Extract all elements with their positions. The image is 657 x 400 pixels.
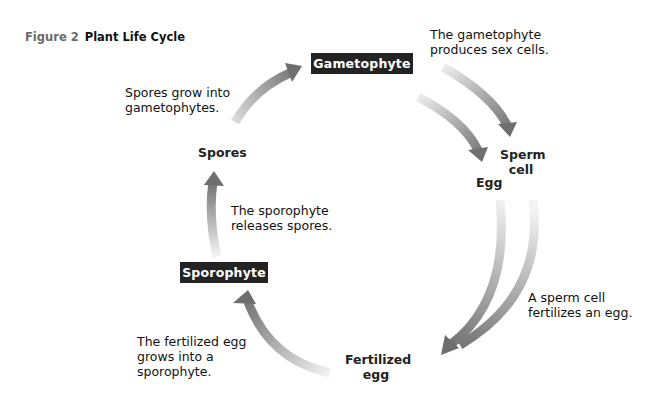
caption-line: Spores grow into bbox=[125, 85, 230, 100]
arrow-fertilized-to-sporophyte bbox=[233, 290, 330, 373]
caption-sperm-fertilizes: A sperm cell fertilizes an egg. bbox=[528, 290, 632, 320]
figure-title: Figure 2Plant Life Cycle bbox=[25, 30, 185, 44]
sperm-cell-line2: cell bbox=[500, 162, 542, 177]
figure-name: Plant Life Cycle bbox=[85, 30, 185, 44]
stage-gametophyte: Gametophyte bbox=[311, 53, 413, 74]
caption-line: A sperm cell bbox=[528, 290, 632, 305]
arrow-fertilization bbox=[441, 200, 534, 355]
stage-fertilized-egg: Fertilized egg bbox=[345, 352, 407, 382]
stage-egg: Egg bbox=[476, 175, 502, 190]
arrow-sporophyte-to-spores bbox=[204, 171, 224, 257]
sperm-cell-line1: Sperm bbox=[500, 147, 542, 162]
stage-sporophyte: Sporophyte bbox=[180, 262, 268, 283]
caption-spores-grow: Spores grow into gametophytes. bbox=[125, 85, 230, 115]
caption-fertilized-grows: The fertilized egg grows into a sporophy… bbox=[137, 334, 247, 379]
caption-line: gametophytes. bbox=[125, 100, 230, 115]
arrow-spores-to-gametophyte bbox=[235, 63, 302, 122]
caption-line: fertilizes an egg. bbox=[528, 305, 632, 320]
caption-line: releases spores. bbox=[231, 218, 332, 233]
caption-gametophyte-produces: The gametophyte produces sex cells. bbox=[430, 27, 549, 57]
fertilized-egg-line1: Fertilized bbox=[345, 352, 407, 367]
arrow-gametophyte-to-egg bbox=[418, 97, 488, 162]
caption-line: sporophyte. bbox=[137, 364, 247, 379]
caption-line: The sporophyte bbox=[231, 203, 332, 218]
fertilized-egg-line2: egg bbox=[345, 367, 407, 382]
caption-line: The gametophyte bbox=[430, 27, 549, 42]
stage-spores: Spores bbox=[198, 145, 247, 160]
caption-sporophyte-releases: The sporophyte releases spores. bbox=[231, 203, 332, 233]
figure-number: Figure 2 bbox=[25, 30, 79, 44]
caption-line: grows into a bbox=[137, 349, 247, 364]
caption-line: The fertilized egg bbox=[137, 334, 247, 349]
caption-line: produces sex cells. bbox=[430, 42, 549, 57]
stage-sperm-cell: Sperm cell bbox=[500, 147, 542, 177]
